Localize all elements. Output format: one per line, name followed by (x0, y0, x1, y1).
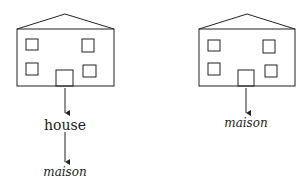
house-drawing-left (17, 14, 114, 86)
window-right-1 (208, 40, 220, 51)
window-left-2 (82, 39, 94, 52)
window-left-4 (83, 65, 96, 77)
window-right-3 (208, 63, 220, 75)
window-right-2 (263, 40, 275, 53)
word-label-house: house (25, 118, 105, 132)
wall-right (199, 29, 295, 86)
window-right-4 (265, 65, 277, 77)
house-drawing-right (199, 14, 295, 86)
translation-label-right: maison (206, 117, 286, 129)
roof-left (17, 14, 114, 29)
roof-right (199, 14, 295, 29)
door-left (56, 70, 73, 86)
window-left-1 (26, 39, 38, 50)
window-left-3 (26, 63, 38, 75)
diagram-canvas (0, 0, 307, 189)
wall-left (17, 29, 114, 86)
translation-label-left: maison (25, 166, 105, 178)
door-right (238, 70, 254, 86)
